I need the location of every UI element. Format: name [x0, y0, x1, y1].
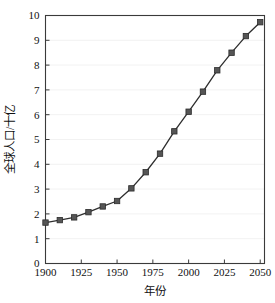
data-point-marker [143, 170, 148, 175]
y-tick-label: 8 [34, 59, 40, 71]
data-point-marker [258, 20, 263, 25]
data-point-marker [71, 215, 76, 220]
data-point-marker [86, 209, 91, 214]
series-markers [43, 20, 263, 226]
population-chart: 0123456789101900192519501975200020252050… [0, 0, 275, 303]
y-axis-title: 全球人口/十亿 [3, 105, 16, 174]
data-point-marker [200, 89, 205, 94]
data-point-marker [114, 198, 119, 203]
y-axis: 012345678910 [29, 9, 50, 269]
y-tick-label: 1 [34, 233, 40, 245]
x-tick-label: 1900 [35, 266, 58, 278]
y-tick-label: 10 [29, 9, 41, 21]
data-point-marker [129, 186, 134, 191]
x-tick-label: 1975 [142, 266, 165, 278]
y-tick-label: 7 [34, 84, 40, 96]
series-line [46, 22, 261, 222]
y-tick-label: 9 [34, 34, 40, 46]
data-point-marker [229, 50, 234, 55]
data-point-marker [215, 68, 220, 73]
y-tick-label: 5 [34, 133, 40, 145]
y-tick-label: 4 [34, 158, 40, 170]
x-tick-label: 2025 [213, 266, 236, 278]
x-tick-label: 1925 [70, 266, 93, 278]
x-axis-title: 年份 [144, 284, 167, 297]
data-point-marker [57, 217, 62, 222]
data-point-marker [243, 33, 248, 38]
data-point-marker [172, 129, 177, 134]
x-tick-label: 2000 [178, 266, 201, 278]
chart-canvas: 0123456789101900192519501975200020252050… [0, 0, 275, 303]
data-point-marker [157, 151, 162, 156]
data-point-marker [43, 220, 48, 225]
data-point-marker [186, 109, 191, 114]
data-point-marker [100, 204, 105, 209]
gridlines [46, 16, 265, 239]
x-tick-label: 2050 [249, 266, 272, 278]
y-tick-label: 3 [34, 183, 40, 195]
x-tick-label: 1950 [106, 266, 129, 278]
x-axis: 1900192519501975200020252050 [35, 260, 272, 278]
y-tick-label: 2 [34, 208, 40, 220]
y-tick-label: 6 [34, 109, 40, 121]
